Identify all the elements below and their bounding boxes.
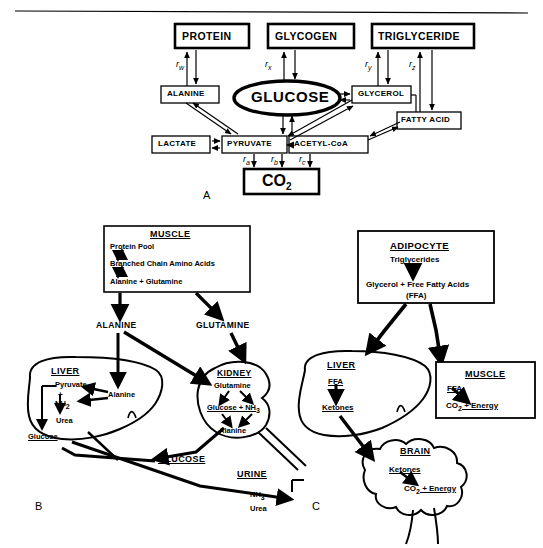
central-metabolite-glucose: GLUCOSE <box>251 89 329 104</box>
kidney-glutamine: Glutamine <box>214 382 251 390</box>
muscle-c-ffa: FFA <box>447 385 462 393</box>
metabolite-lactate: LACTATE <box>158 140 196 148</box>
co2-base: CO <box>262 172 286 189</box>
flux-label-alanine: ALANINE <box>96 321 137 330</box>
liver-c-ketones: Ketones <box>322 404 354 412</box>
adipocyte-triglycerides: Triglycerides <box>390 256 439 264</box>
urine-nh3: NH3 <box>250 491 265 501</box>
adipocyte-ffa-abbrev: (FFA) <box>406 292 426 300</box>
muscle-c-output: CO2 + Energy <box>446 402 498 412</box>
metabolite-alanine: ALANINE <box>167 90 205 98</box>
store-label-protein: PROTEIN <box>182 31 231 42</box>
store-label-glycogen: GLYCOGEN <box>275 31 337 42</box>
diagram-canvas <box>0 0 543 548</box>
liver-b-title: LIVER <box>51 367 80 376</box>
muscle-box-title: MUSCLE <box>150 230 190 239</box>
flux-label-glutamine: GLUTAMINE <box>196 321 250 330</box>
metabolite-glycerol: GLYCEROL <box>358 90 404 98</box>
adipocyte-glycerol-ffa: Glycerol + Free Fatty Acids <box>366 281 469 289</box>
co2-subscript: 2 <box>286 181 292 192</box>
brain-ketones: Ketones <box>389 466 421 474</box>
kidney-title: KIDNEY <box>217 369 252 378</box>
adipocyte-title: ADIPOCYTE <box>390 241 449 251</box>
rate-label-rx: rx <box>265 60 272 71</box>
metabolite-acetyl-coa: ACETYL-CoA <box>294 140 348 148</box>
kidney-glucose-nh3: Glucose + NH3 <box>207 404 260 414</box>
figure-root: PROTEIN GLYCOGEN TRIGLYCERIDE GLUCOSE AL… <box>0 0 543 548</box>
metabolite-pyruvate: PYRUVATE <box>227 140 272 148</box>
metabolite-co2: CO2 <box>262 173 292 192</box>
panel-letter-b: B <box>35 501 42 512</box>
rate-label-rw: rw <box>176 60 184 71</box>
muscle-line-bcaa: Branched Chain Amino Acids <box>110 260 215 268</box>
muscle-c-title: MUSCLE <box>465 370 505 379</box>
liver-c-ffa: FFA <box>328 378 343 386</box>
liver-b-plus: + <box>58 391 63 399</box>
kidney-glucose-text: Glucose + NH <box>207 403 256 412</box>
liver-b-urea: Urea <box>56 417 73 425</box>
liver-c-title: LIVER <box>327 361 356 370</box>
liver-b-alanine: Alanine <box>108 391 135 399</box>
rate-label-ry: ry <box>365 60 372 71</box>
liver-b-pyruvate: Pyruvate <box>55 381 87 389</box>
panel-letter-a: A <box>203 190 210 201</box>
rate-label-rc: rc <box>299 155 306 166</box>
brain-title: BRAIN <box>400 447 431 456</box>
muscle-line-alanine-glutamine: Alanine + Glutamine <box>110 278 182 286</box>
urine-title: URINE <box>237 470 267 479</box>
rate-label-rb: rb <box>271 155 278 166</box>
output-glucose-b: GLUCOSE <box>158 455 205 464</box>
liver-b-glucose: Glucose <box>28 433 58 441</box>
kidney-alanine: Alanine <box>219 427 246 435</box>
liver-b-nh2: NH2 <box>55 400 70 410</box>
rate-label-rz: rz <box>409 60 416 71</box>
brain-output: CO2 + Energy <box>404 485 456 495</box>
urine-urea: Urea <box>250 505 267 513</box>
panel-letter-c: C <box>312 501 320 512</box>
adipocyte-products: Glycerol + Free Fatty Acids <box>366 280 469 289</box>
store-label-triglyceride: TRIGLYCERIDE <box>378 31 460 42</box>
muscle-line-protein-pool: Protein Pool <box>110 243 154 251</box>
metabolite-fatty-acid: FATTY ACID <box>401 116 450 124</box>
rate-label-ra: ra <box>243 155 250 166</box>
